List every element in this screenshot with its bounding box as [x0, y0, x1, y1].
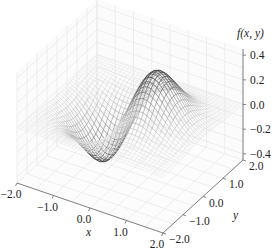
x-tick	[89, 208, 91, 211]
y-tick-label: 1.0	[229, 178, 244, 190]
z-axis-label: f(x, y)	[237, 27, 264, 40]
y-tick-label: −2.0	[169, 233, 190, 245]
y-tick	[183, 215, 186, 216]
z-tick-label: 0.4	[250, 49, 265, 61]
z-tick-label: −0.4	[250, 148, 271, 160]
y-tick	[243, 160, 246, 161]
y-tick	[223, 178, 226, 179]
z-tick-label: 0.0	[250, 99, 265, 111]
x-tick-label: 1.0	[113, 226, 128, 238]
y-tick	[203, 197, 206, 198]
surface-plot-3d: −2.0−1.00.01.02.0−2.0−1.00.01.02.0−0.4−0…	[0, 0, 274, 250]
y-tick	[163, 233, 166, 234]
x-tick	[162, 233, 164, 236]
x-tick	[52, 196, 54, 199]
x-tick	[125, 221, 127, 224]
y-tick-label: 0.0	[209, 197, 224, 209]
z-tick-label: −0.2	[250, 123, 271, 135]
x-tick-label: 0.0	[77, 213, 92, 225]
x-tick-label: −2.0	[1, 188, 22, 200]
y-axis-label: y	[232, 209, 239, 222]
y-tick-label: −1.0	[189, 215, 210, 227]
x-axis-label: x	[85, 226, 92, 238]
x-tick	[16, 183, 18, 186]
z-tick-label: 0.2	[250, 74, 265, 86]
x-tick-label: −1.0	[37, 201, 58, 213]
x-tick-label: 2.0	[150, 238, 165, 250]
y-tick-label: 2.0	[249, 160, 264, 172]
